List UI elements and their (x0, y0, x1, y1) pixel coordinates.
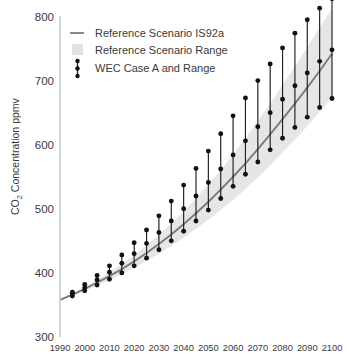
wec-upper-dot (218, 131, 223, 136)
wec-value-dot (243, 138, 248, 143)
legend-errorbar-mid-dot (75, 66, 79, 70)
chart-canvas: 300400500600700800 199020002010202020302… (0, 0, 349, 361)
wec-value-dot (280, 97, 285, 102)
wec-lower-dot (181, 229, 186, 234)
wec-value-dot (95, 278, 100, 283)
wec-upper-dot (317, 6, 322, 11)
wec-upper-dot (243, 95, 248, 100)
wec-value-dot (255, 124, 260, 129)
wec-lower-dot (268, 147, 273, 152)
wec-lower-dot (119, 270, 124, 275)
legend-label-reference-range: Reference Scenario Range (95, 44, 228, 56)
wec-lower-dot (169, 238, 174, 243)
wec-value-dot (317, 59, 322, 64)
x-tick-label: 2050 (198, 343, 219, 353)
legend-errorbar-bottom-dot (75, 74, 79, 78)
wec-upper-dot (231, 113, 236, 118)
wec-upper-dot (292, 31, 297, 36)
wec-lower-dot (70, 294, 75, 299)
wec-value-dot (119, 261, 124, 266)
legend-label-reference-line: Reference Scenario IS92a (95, 27, 225, 39)
wec-lower-dot (255, 160, 260, 165)
y-tick-label: 700 (35, 75, 54, 87)
y-tick-label: 300 (35, 331, 54, 343)
co2-concentration-chart: 300400500600700800 199020002010202020302… (0, 0, 349, 361)
wec-upper-dot (305, 17, 310, 22)
x-tick-label: 2030 (149, 343, 170, 353)
wec-value-dot (169, 219, 174, 224)
wec-value-dot (144, 241, 149, 246)
wec-upper-dot (206, 149, 211, 154)
legend-label-wec: WEC Case A and Range (95, 62, 215, 74)
wec-value-dot (132, 251, 137, 256)
wec-value-dot (156, 230, 161, 235)
legend-errorbar-top-dot (75, 59, 79, 63)
wec-value-dot (292, 83, 297, 88)
wec-upper-dot (181, 183, 186, 188)
wec-upper-dot (156, 213, 161, 218)
wec-upper-dot (107, 263, 112, 268)
x-tick-label: 2040 (173, 343, 194, 353)
wec-lower-dot (206, 208, 211, 213)
wec-lower-dot (231, 184, 236, 189)
legend-item-reference-range: Reference Scenario Range (72, 44, 228, 56)
x-tick-label: 2070 (247, 343, 268, 353)
wec-lower-dot (95, 283, 100, 288)
x-tick-label: 2020 (124, 343, 145, 353)
wec-lower-dot (82, 288, 87, 293)
wec-value-dot (218, 167, 223, 172)
wec-lower-dot (132, 263, 137, 268)
x-tick-label: 2080 (272, 343, 293, 353)
x-tick-label: 2000 (74, 343, 95, 353)
wec-upper-dot (268, 61, 273, 66)
wec-lower-dot (243, 172, 248, 177)
wec-upper-dot (119, 253, 124, 258)
x-tick-label: 2060 (223, 343, 244, 353)
wec-upper-dot (169, 199, 174, 204)
x-tick-label: 2090 (297, 343, 318, 353)
wec-upper-dot (132, 240, 137, 245)
x-tick-label: 1990 (50, 343, 71, 353)
wec-value-dot (268, 110, 273, 115)
wec-lower-dot (330, 96, 335, 101)
wec-value-dot (305, 70, 310, 75)
x-tick-label: 2100 (322, 343, 343, 353)
y-tick-label: 600 (35, 139, 54, 151)
y-tick-label: 800 (35, 11, 54, 23)
wec-lower-dot (317, 105, 322, 110)
wec-value-dot (206, 180, 211, 185)
wec-upper-dot (95, 273, 100, 278)
wec-lower-dot (156, 247, 161, 252)
wec-upper-dot (144, 228, 149, 233)
wec-value-dot (231, 153, 236, 158)
wec-value-dot (107, 270, 112, 275)
wec-upper-dot (194, 166, 199, 171)
wec-lower-dot (305, 115, 310, 120)
x-tick-label: 2010 (99, 343, 120, 353)
wec-value-dot (194, 194, 199, 199)
y-tick-label: 500 (35, 203, 54, 215)
wec-lower-dot (194, 219, 199, 224)
wec-lower-dot (218, 196, 223, 201)
legend-swatch-symbol (72, 44, 83, 55)
wec-upper-dot (280, 45, 285, 50)
wec-lower-dot (144, 256, 149, 261)
wec-value-dot (181, 206, 186, 211)
wec-upper-dot (255, 78, 260, 83)
y-tick-label: 400 (35, 267, 54, 279)
wec-lower-dot (107, 277, 112, 282)
wec-lower-dot (280, 136, 285, 141)
wec-value-dot (330, 47, 335, 52)
wec-lower-dot (292, 125, 297, 130)
